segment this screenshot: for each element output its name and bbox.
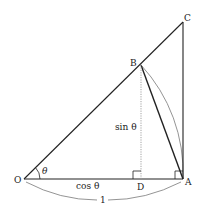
diagram-canvas: O A D B C θ sin θ cos θ 1 (0, 0, 199, 212)
geometry-figure: O A D B C θ sin θ cos θ 1 (0, 0, 199, 212)
label-cos: cos θ (76, 181, 99, 191)
label-d: D (137, 182, 144, 192)
label-theta: θ (42, 166, 48, 176)
right-angle-d (133, 171, 141, 179)
label-a: A (184, 177, 192, 187)
label-radius: 1 (100, 195, 106, 205)
line-oc (24, 22, 183, 179)
label-o: O (14, 175, 21, 185)
radius-brace-right (108, 182, 181, 200)
theta-arc (36, 168, 41, 179)
chord-ba (141, 65, 183, 179)
label-c: C (184, 13, 191, 23)
label-b: B (130, 58, 137, 68)
label-sin: sin θ (115, 122, 137, 132)
